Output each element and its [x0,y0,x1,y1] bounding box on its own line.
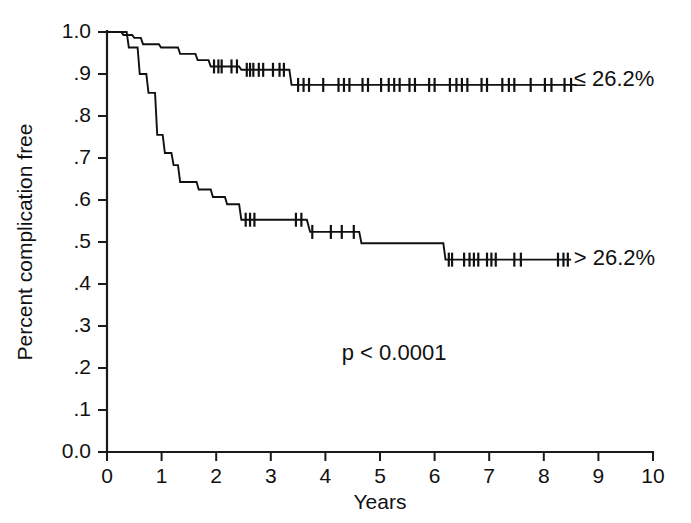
x-tick-group [107,452,653,461]
x-tick-label: 2 [210,464,222,487]
y-tick-label: .7 [73,145,91,168]
survival-curve [107,32,577,85]
series-high-risk-group [107,32,571,267]
kaplan-meier-chart: 0.0.1.2.3.4.5.6.7.8.91.0 012345678910 ≤ … [0,0,691,523]
x-tick-label: 8 [538,464,550,487]
x-tick-label: 10 [641,464,664,487]
x-tick-label: 4 [320,464,332,487]
survival-curve [107,32,571,260]
y-tick-label: .6 [73,187,91,210]
y-axis: 0.0.1.2.3.4.5.6.7.8.91.0 [62,19,107,462]
y-tick-label: .3 [73,313,91,336]
chart-canvas: 0.0.1.2.3.4.5.6.7.8.91.0 012345678910 ≤ … [0,0,691,523]
y-tick-label: 1.0 [62,19,91,42]
y-tick-label: .9 [73,61,91,84]
x-tick-label: 6 [429,464,441,487]
y-tick-label: 0.0 [62,439,91,462]
y-tick-group [98,32,107,452]
y-axis-title: Percent complication free [13,124,36,361]
x-axis: 012345678910 [101,452,665,487]
y-tick-label-group: 0.0.1.2.3.4.5.6.7.8.91.0 [62,19,92,462]
x-tick-label: 5 [374,464,386,487]
annotation-p-value: p < 0.0001 [342,340,447,365]
y-tick-label: .1 [73,397,91,420]
y-tick-label: .5 [73,229,91,252]
series-label-low-risk-group: ≤ 26.2% [574,66,655,91]
series-low-risk-group [107,32,577,92]
y-tick-label: .4 [73,271,91,294]
series-label-high-risk-group: > 26.2% [574,245,655,270]
x-axis-title: Years [354,490,407,513]
annotation-group: p < 0.0001 [342,340,447,365]
x-tick-label: 1 [156,464,168,487]
x-tick-label: 7 [483,464,495,487]
series-label-group: ≤ 26.2%> 26.2% [574,66,655,271]
plot-area: 0.0.1.2.3.4.5.6.7.8.91.0 012345678910 ≤ … [62,19,665,488]
y-tick-label: .2 [73,355,91,378]
x-tick-label-group: 012345678910 [101,464,665,487]
y-tick-label: .8 [73,103,91,126]
x-tick-label: 0 [101,464,113,487]
series-group [107,32,577,267]
x-tick-label: 9 [593,464,605,487]
x-tick-label: 3 [265,464,277,487]
